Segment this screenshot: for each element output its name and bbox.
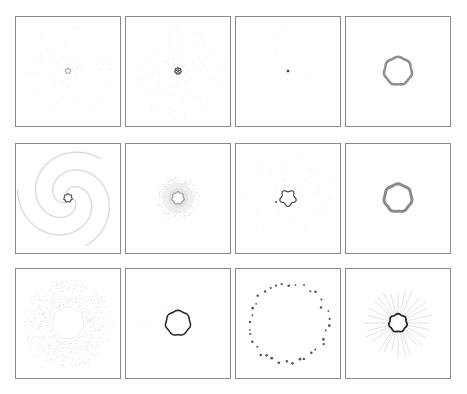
pattern-plot: [346, 269, 450, 378]
pattern-panel-r1c2: [125, 16, 231, 127]
pattern-plot: [126, 269, 230, 378]
pattern-panel-r3c2: [125, 268, 231, 379]
pattern-panel-r3c1: [15, 268, 121, 379]
pattern-plot: [126, 17, 230, 126]
pattern-panel-r3c4: [345, 268, 451, 379]
panel-grid: [0, 0, 467, 394]
pattern-plot: [346, 144, 450, 253]
pattern-plot: [236, 17, 340, 126]
pattern-panel-r3c3: [235, 268, 341, 379]
pattern-panel-r2c2: [125, 143, 231, 254]
pattern-plot: [16, 269, 120, 378]
pattern-plot: [16, 17, 120, 126]
pattern-plot: [346, 17, 450, 126]
pattern-panel-r2c4: [345, 143, 451, 254]
pattern-panel-r1c4: [345, 16, 451, 127]
pattern-panel-r2c3: [235, 143, 341, 254]
pattern-plot: [236, 144, 340, 253]
pattern-plot: [126, 144, 230, 253]
pattern-panel-r2c1: [15, 143, 121, 254]
pattern-plot: [16, 144, 120, 253]
pattern-panel-r1c1: [15, 16, 121, 127]
pattern-panel-r1c3: [235, 16, 341, 127]
pattern-plot: [236, 269, 340, 378]
